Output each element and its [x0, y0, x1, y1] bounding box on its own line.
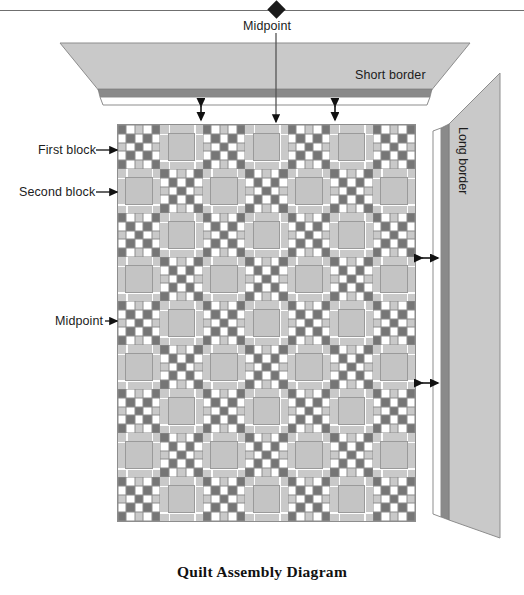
quilt-patch-light: [220, 477, 228, 486]
quilt-patch-light: [160, 275, 168, 284]
quilt-patch-dark: [339, 442, 347, 451]
quilt-block-first: [203, 213, 245, 257]
quilt-patch-light: [160, 451, 168, 460]
quilt-patch-light: [177, 380, 185, 389]
quilt-patch-white: [143, 231, 151, 240]
quilt-patch-white: [313, 248, 321, 257]
quilt-patch-white: [126, 512, 134, 521]
quilt-patch-white: [254, 451, 262, 460]
quilt-sashing-horizontal: [288, 468, 330, 470]
quilt-patch-white: [313, 301, 321, 310]
quilt-sashing-vertical: [364, 213, 366, 257]
quilt-patch-dark: [296, 310, 304, 319]
quilt-patch-white: [220, 327, 228, 336]
quilt-patch-dark: [305, 231, 313, 240]
quilt-patch-white: [313, 213, 321, 222]
quilt-patch-dark: [305, 495, 313, 504]
quilt-patch-dark: [203, 301, 211, 310]
quilt-patch-white: [288, 398, 296, 407]
quilt-block-center-square: [254, 486, 279, 512]
quilt-patch-dark: [390, 143, 398, 152]
quilt-patch-white: [356, 433, 364, 442]
quilt-patch-dark: [373, 512, 381, 521]
quilt-block-center-square: [254, 134, 279, 160]
quilt-patch-white: [211, 213, 219, 222]
quilt-patch-dark: [279, 204, 287, 213]
quilt-sashing-horizontal: [330, 248, 372, 250]
quilt-block-second: [245, 125, 287, 169]
quilt-patch-light: [288, 231, 296, 240]
quilt-patch-white: [169, 451, 177, 460]
quilt-patch-white: [220, 134, 228, 143]
quilt-patch-white: [177, 178, 185, 187]
quilt-patch-white: [160, 442, 168, 451]
quilt-patch-white: [398, 231, 406, 240]
quilt-block-frame: [288, 433, 330, 477]
quilt-patch-dark: [186, 459, 194, 468]
quilt-patch-dark: [313, 222, 321, 231]
quilt-patch-white: [254, 169, 262, 178]
quilt-patch-white: [220, 151, 228, 160]
quilt-patch-white: [339, 204, 347, 213]
quilt-patch-dark: [220, 319, 228, 328]
quilt-patch-dark: [407, 336, 415, 345]
quilt-patch-dark: [262, 451, 270, 460]
quilt-patch-white: [169, 204, 177, 213]
quilt-block-center-square: [211, 178, 236, 204]
quilt-patch-light: [390, 125, 398, 134]
quilt-patch-dark: [143, 310, 151, 319]
quilt-patch-white: [322, 310, 331, 319]
quilt-patch-white: [245, 459, 253, 468]
quilt-patch-dark: [203, 336, 211, 345]
quilt-block-center-square: [169, 486, 194, 512]
quilt-block-second: [373, 345, 415, 389]
quilt-block-second: [245, 301, 287, 345]
quilt-patch-white: [237, 398, 246, 407]
quilt-patch-dark: [330, 204, 338, 213]
quilt-patch-light: [160, 187, 168, 196]
quilt-patch-light: [237, 319, 246, 328]
quilt-patch-dark: [203, 477, 211, 486]
quilt-patch-dark: [271, 371, 279, 380]
quilt-block-first: [118, 477, 160, 521]
quilt-patch-dark: [169, 442, 177, 451]
quilt-patch-white: [194, 442, 202, 451]
quilt-patch-dark: [373, 301, 381, 310]
quilt-patch-dark: [262, 187, 270, 196]
quilt-patch-dark: [373, 336, 381, 345]
quilt-patch-white: [313, 143, 321, 152]
quilt-patch-dark: [228, 503, 236, 512]
quilt-patch-dark: [322, 301, 331, 310]
quilt-patch-dark: [271, 178, 279, 187]
quilt-patch-light: [135, 336, 143, 345]
quilt-patch-white: [407, 222, 415, 231]
quilt-patch-white: [203, 398, 211, 407]
quilt-patch-dark: [245, 257, 253, 266]
quilt-sashing-horizontal: [245, 248, 287, 250]
quilt-block-second: [118, 169, 160, 213]
quilt-patch-white: [339, 363, 347, 372]
quilt-patch-light: [407, 407, 415, 416]
quilt-patch-white: [305, 503, 313, 512]
quilt-patch-white: [237, 222, 246, 231]
quilt-sashing-vertical: [194, 125, 196, 169]
quilt-block-first: [118, 389, 160, 433]
quilt-block-center-square: [296, 266, 321, 292]
quilt-patch-white: [347, 266, 355, 275]
quilt-patch-light: [220, 125, 228, 134]
quilt-patch-white: [296, 301, 304, 310]
quilt-block-center-square: [254, 222, 279, 248]
quilt-patch-white: [390, 151, 398, 160]
quilt-block-second: [160, 389, 202, 433]
quilt-patch-white: [194, 371, 202, 380]
quilt-patch-dark: [407, 125, 415, 134]
quilt-patch-light: [177, 345, 185, 354]
quilt-patch-dark: [381, 134, 389, 143]
quilt-patch-white: [296, 512, 304, 521]
quilt-patch-light: [288, 495, 296, 504]
quilt-patch-white: [245, 283, 253, 292]
quilt-block-frame: [245, 301, 287, 345]
quilt-patch-dark: [203, 424, 211, 433]
quilt-patch-white: [135, 503, 143, 512]
quilt-patch-white: [271, 468, 279, 477]
